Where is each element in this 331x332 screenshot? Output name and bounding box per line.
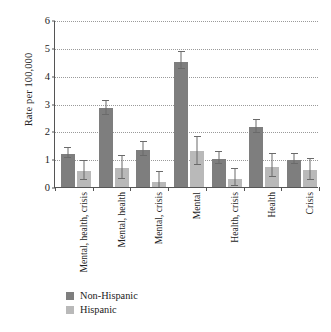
bar-group: [174, 21, 204, 187]
bar-nh[interactable]: [99, 20, 113, 187]
error-bar-cap: [231, 168, 238, 169]
error-bar-cap: [64, 147, 71, 148]
error-bar-cap: [194, 164, 201, 165]
legend-item[interactable]: Hispanic: [66, 303, 138, 317]
bar-group: [287, 21, 317, 187]
bar-hi[interactable]: [228, 20, 242, 187]
bar-nh[interactable]: [136, 20, 150, 187]
error-bar-cap: [307, 179, 314, 180]
x-tick-mark: [93, 187, 94, 191]
bar-hi[interactable]: [115, 20, 129, 187]
x-tick-mark: [206, 187, 207, 191]
chart-legend: Non-HispanicHispanic: [66, 289, 138, 317]
error-bar-cap: [253, 119, 260, 120]
y-tick-mark: [52, 160, 56, 161]
y-tick-mark: [52, 104, 56, 105]
bar-group: [249, 21, 279, 187]
error-bar-cap: [140, 155, 147, 156]
x-axis-label: Health: [267, 192, 277, 218]
bar-rect[interactable]: [61, 154, 75, 187]
error-bar: [310, 159, 311, 180]
x-axis-label: Mental, crisis: [154, 192, 164, 244]
chart-container: Rate per 100,000 0123456 Mental, health,…: [0, 0, 331, 332]
y-tick-label: 5: [45, 44, 50, 55]
error-bar-cap: [215, 163, 222, 164]
y-tick-mark: [52, 76, 56, 77]
error-bar-cap: [231, 185, 238, 186]
legend-swatch-icon: [66, 292, 74, 300]
bar-hi[interactable]: [190, 20, 204, 187]
error-bar-cap: [307, 158, 314, 159]
bar-nh[interactable]: [61, 20, 75, 187]
error-bar-cap: [118, 178, 125, 179]
plot-area: 0123456: [54, 21, 318, 188]
error-bar-cap: [291, 163, 298, 164]
x-tick-mark: [244, 187, 245, 191]
error-bar-cap: [80, 179, 87, 180]
error-bar: [197, 137, 198, 165]
error-bar-cap: [102, 100, 109, 101]
error-bar-cap: [102, 114, 109, 115]
error-bar-cap: [253, 132, 260, 133]
bar-nh[interactable]: [174, 20, 188, 187]
bar-group: [61, 21, 91, 187]
y-tick-mark: [52, 21, 56, 22]
y-tick-label: 2: [45, 127, 50, 138]
bar-nh[interactable]: [287, 20, 301, 187]
error-bar-cap: [64, 157, 71, 158]
error-bar: [181, 52, 182, 69]
y-tick-label: 4: [45, 71, 50, 82]
error-bar: [272, 154, 273, 178]
legend-item[interactable]: Non-Hispanic: [66, 289, 138, 303]
bar-hi[interactable]: [265, 20, 279, 187]
bar-nh[interactable]: [249, 20, 263, 187]
x-axis-label: Mental, health: [117, 192, 127, 247]
y-tick-label: 3: [45, 99, 50, 110]
legend-label: Hispanic: [80, 303, 117, 317]
error-bar-cap: [156, 171, 163, 172]
bar-rect[interactable]: [99, 108, 113, 187]
bar-hi[interactable]: [77, 20, 91, 187]
bar-group: [136, 21, 166, 187]
x-tick-mark: [281, 187, 282, 191]
bar-group: [99, 21, 129, 187]
error-bar-cap: [291, 153, 298, 154]
error-bar-cap: [178, 68, 185, 69]
error-bar-cap: [269, 153, 276, 154]
error-bar-cap: [215, 151, 222, 152]
error-bar: [105, 101, 106, 115]
bar-rect[interactable]: [174, 62, 188, 187]
x-tick-mark: [130, 187, 131, 191]
error-bar-cap: [80, 160, 87, 161]
x-axis-label: Mental: [192, 192, 202, 219]
legend-swatch-icon: [66, 306, 74, 314]
bar-hi[interactable]: [303, 20, 317, 187]
error-bar-cap: [194, 136, 201, 137]
y-tick-label: 6: [45, 16, 50, 27]
x-tick-mark: [168, 187, 169, 191]
bar-nh[interactable]: [212, 20, 226, 187]
error-bar: [143, 142, 144, 156]
error-bar: [83, 161, 84, 180]
error-bar-cap: [269, 176, 276, 177]
legend-label: Non-Hispanic: [80, 289, 138, 303]
error-bar-cap: [118, 155, 125, 156]
x-axis-label: Health, crisis: [230, 192, 240, 243]
error-bar: [234, 169, 235, 186]
x-tick-mark: [319, 187, 320, 191]
y-tick-label: 0: [45, 183, 50, 194]
bar-group: [212, 21, 242, 187]
bar-rect[interactable]: [249, 127, 263, 187]
x-axis-label: Mental, health, crisis: [79, 192, 89, 272]
error-bar: [121, 156, 122, 179]
x-tick-mark: [55, 187, 56, 191]
bar-hi[interactable]: [152, 20, 166, 187]
x-axis-label: Crisis: [305, 192, 315, 214]
y-axis-title: Rate per 100,000: [23, 15, 34, 165]
y-tick-label: 1: [45, 155, 50, 166]
y-tick-mark: [52, 132, 56, 133]
x-axis-labels: Mental, health, crisisMental, healthMent…: [54, 192, 318, 284]
error-bar-cap: [178, 51, 185, 52]
error-bar-cap: [140, 141, 147, 142]
y-tick-mark: [52, 48, 56, 49]
